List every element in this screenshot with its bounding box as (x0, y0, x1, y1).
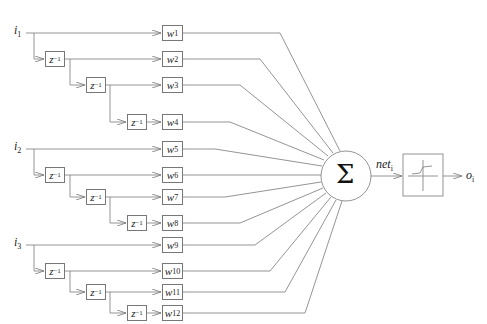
connection-lines (0, 0, 487, 324)
weight-box-9: w9 (162, 237, 183, 253)
delay-box: z−1 (86, 189, 106, 205)
input-label-1: i1 (14, 24, 21, 39)
delay-box: z−1 (86, 284, 106, 300)
weight-box-4: w4 (162, 114, 183, 130)
summation-symbol: Σ (336, 159, 354, 189)
delay-box: z−1 (127, 305, 147, 321)
delay-box: z−1 (86, 77, 106, 93)
weight-box-7: w7 (162, 189, 183, 205)
input-label-2: i2 (14, 140, 21, 155)
delay-box: z−1 (45, 51, 65, 67)
weight-box-6: w6 (162, 167, 183, 183)
input-label-3: i3 (14, 236, 21, 251)
net-label: neti (376, 158, 393, 173)
output-label: oi (466, 169, 474, 184)
weight-box-2: w2 (162, 51, 183, 67)
delay-box: z−1 (45, 167, 65, 183)
weight-box-10: w10 (162, 263, 183, 279)
weight-box-12: w12 (162, 305, 183, 321)
weight-box-11: w11 (162, 284, 183, 300)
weight-box-8: w8 (162, 215, 183, 231)
weight-box-1: w1 (162, 25, 183, 41)
diagram-canvas: i1 i2 i3 z−1 z−1 z−1 z−1 z−1 z−1 z−1 z−1… (0, 0, 487, 324)
delay-box: z−1 (45, 263, 65, 279)
weight-box-5: w5 (162, 141, 183, 157)
delay-box: z−1 (127, 114, 147, 130)
delay-box: z−1 (127, 215, 147, 231)
weight-box-3: w3 (162, 77, 183, 93)
